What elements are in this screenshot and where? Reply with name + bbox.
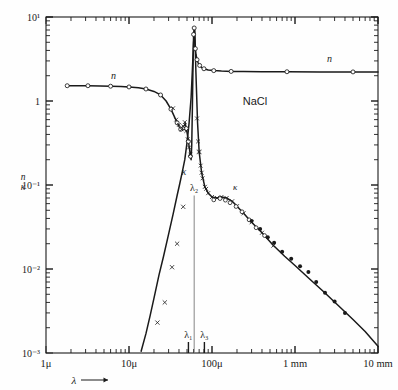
kappa-data-point-open	[212, 198, 216, 202]
n-data-point	[285, 70, 289, 74]
y-tick-label: 10⁻³	[22, 348, 40, 359]
n-data-point	[109, 84, 113, 88]
kappa-data-point-filled	[314, 280, 318, 284]
n-data-point	[144, 87, 148, 91]
kappa-curve-label-right: κ	[233, 182, 238, 192]
x-tick-label: 100μ	[201, 358, 223, 369]
kappa-data-point-open	[254, 226, 258, 230]
lambda1-label: λ₁	[184, 329, 192, 340]
y-axis-title-n: n	[21, 172, 26, 182]
n-data-point	[202, 67, 206, 71]
y-tick-label: 1	[35, 96, 40, 107]
n-curve-label-left: n	[111, 70, 116, 81]
x-axis-title: λ	[71, 374, 77, 386]
n-data-point	[198, 63, 202, 67]
y-tick-label: 10¹	[27, 12, 40, 23]
x-tick-label: 10μ	[121, 358, 138, 369]
n-data-point	[86, 84, 90, 88]
kappa-data-point-filled	[306, 270, 310, 274]
kappa-data-point-filled	[323, 291, 327, 295]
lambda2-label: λ₂	[190, 182, 198, 193]
figure-canvas: 1μ10μ100μ1 mm10 mm10¹110⁻¹10⁻²10⁻³nκλλ₂λ…	[0, 0, 398, 390]
kappa-curve-label-left: κ	[182, 166, 187, 177]
n-data-point	[192, 32, 196, 36]
n-data-point	[351, 70, 355, 74]
n-data-point	[127, 85, 131, 89]
kappa-data-point-open	[240, 210, 244, 214]
kappa-data-point-open	[228, 201, 232, 205]
x-tick-label: 10 mm	[363, 358, 392, 369]
n-data-point	[65, 84, 69, 88]
n-curve-label-right: n	[327, 53, 332, 64]
kappa-data-point-filled	[272, 241, 276, 245]
n-data-point	[192, 26, 196, 30]
x-tick-label: 1μ	[41, 358, 52, 369]
y-tick-label: 10⁻²	[22, 264, 40, 275]
n-data-point	[212, 69, 216, 73]
material-label: NaCl	[243, 95, 267, 107]
kappa-data-point-filled	[298, 264, 302, 268]
n-data-point	[159, 93, 163, 97]
x-tick-label: 1 mm	[283, 358, 307, 369]
n-data-point	[193, 47, 197, 51]
n-data-point	[195, 58, 199, 62]
y-axis-title-kappa: κ	[21, 182, 26, 192]
kappa-data-point-filled	[280, 250, 284, 254]
kappa-data-point-open	[223, 198, 227, 202]
kappa-data-point-filled	[343, 311, 347, 315]
kappa-data-point-open	[218, 197, 222, 201]
nacl-optical-constants-chart: 1μ10μ100μ1 mm10 mm10¹110⁻¹10⁻²10⁻³nκλλ₂λ…	[0, 0, 398, 390]
kappa-data-point-filled	[258, 227, 262, 231]
kappa-data-point-filled	[333, 300, 337, 304]
kappa-data-point-filled	[266, 235, 270, 239]
n-data-point	[229, 69, 233, 73]
lambda3-label: λ₃	[200, 329, 208, 340]
kappa-data-point-filled	[289, 257, 293, 261]
kappa-data-point-filled	[250, 219, 254, 223]
kappa-data-point-open	[234, 205, 238, 209]
